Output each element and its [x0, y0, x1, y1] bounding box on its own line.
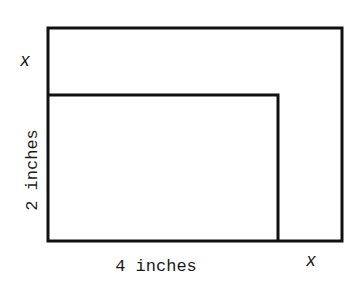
label-2-inches: 2 inches [23, 129, 42, 211]
outer-rectangle [48, 28, 342, 241]
label-x-left: x [20, 50, 31, 70]
label-4-inches: 4 inches [115, 257, 197, 276]
diagram-canvas: x 2 inches 4 inches x [0, 0, 363, 296]
label-x-bottom: x [306, 250, 317, 270]
inner-rectangle [48, 95, 278, 241]
